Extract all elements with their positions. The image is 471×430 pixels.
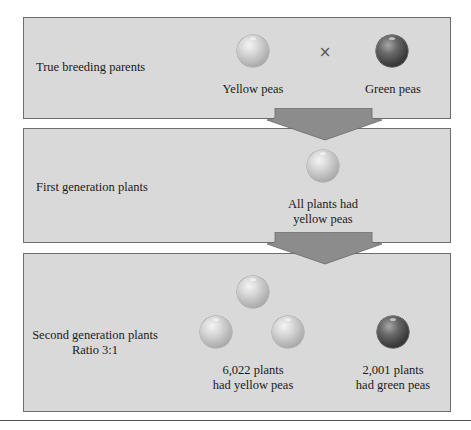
green-peas-caption: Green peas [365, 82, 421, 97]
second-generation-label: Second generation plants [32, 328, 158, 343]
green-pea-icon [377, 316, 409, 348]
parents-label: True breeding parents [36, 60, 145, 75]
green-count-caption-line2: had green peas [356, 378, 430, 393]
f1-caption-line2: yellow peas [293, 212, 352, 227]
yellow-pea-icon [237, 35, 269, 67]
down-arrow-icon [267, 108, 383, 148]
bottom-divider [0, 420, 471, 421]
cross-icon: × [319, 43, 332, 61]
yellow-count-caption-line2: had yellow peas [213, 378, 294, 393]
first-generation-label: First generation plants [36, 180, 148, 195]
yellow-pea-icon [200, 316, 232, 348]
yellow-pea-icon [307, 150, 339, 182]
yellow-pea-icon [237, 276, 269, 308]
f1-caption-line1: All plants had [288, 197, 358, 212]
yellow-peas-caption: Yellow peas [223, 82, 284, 97]
down-arrow-icon [267, 232, 383, 272]
yellow-pea-icon [272, 316, 304, 348]
yellow-count-caption-line1: 6,022 plants [222, 363, 283, 378]
green-count-caption-line1: 2,001 plants [362, 363, 423, 378]
green-pea-icon [376, 35, 408, 67]
ratio-label: Ratio 3:1 [72, 343, 118, 358]
